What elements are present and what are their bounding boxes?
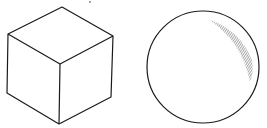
speck-mark xyxy=(89,1,91,3)
sphere-drawing xyxy=(147,11,259,123)
cube-edge-vertical xyxy=(59,64,60,124)
sphere-highlight-hatch xyxy=(210,20,253,82)
sphere-outline xyxy=(147,11,259,123)
cube-drawing xyxy=(7,7,113,124)
figure-canvas xyxy=(0,0,267,128)
cube-edge-right xyxy=(60,36,113,64)
cube-edge-left xyxy=(8,34,60,64)
